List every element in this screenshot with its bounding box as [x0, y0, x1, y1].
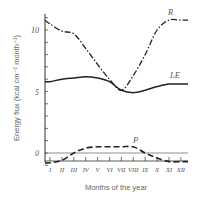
series-label-r: R: [167, 7, 174, 17]
x-axis-label: Months of the year: [85, 183, 148, 192]
y-tick-label: 10: [31, 26, 39, 35]
y-tick-label: 0: [35, 149, 39, 158]
y-tick-label: 5: [35, 88, 39, 97]
x-tick-label: IX: [141, 166, 149, 173]
series-label-le: LE: [169, 70, 181, 80]
axes: 0510IIIIIIIVVVIVIIVIIIIXXXIXII: [31, 14, 188, 173]
series-line-le: [45, 77, 188, 93]
y-axis-label: Energy flux (kcal cm⁻² month⁻¹): [12, 35, 21, 141]
energy-flux-chart: 0510IIIIIIIVVVIVIIVIIIIXXXIXII R LE P Mo…: [0, 0, 201, 200]
x-tick-label: VII: [117, 166, 126, 173]
series-line-r: [45, 19, 188, 90]
x-tick-label: II: [59, 166, 65, 173]
x-tick-label: XI: [165, 166, 173, 173]
series-line-p: [45, 146, 188, 163]
x-tick-label: VI: [106, 166, 113, 173]
series-label-p: P: [132, 135, 138, 145]
x-tick-label: III: [70, 166, 78, 173]
series-lines: [45, 19, 188, 163]
x-tick-label: I: [48, 166, 52, 173]
x-tick-label: X: [154, 166, 160, 173]
x-tick-label: VIII: [128, 166, 139, 173]
x-tick-label: XII: [176, 166, 186, 173]
x-tick-label: IV: [82, 166, 90, 173]
x-tick-label: V: [96, 166, 101, 173]
